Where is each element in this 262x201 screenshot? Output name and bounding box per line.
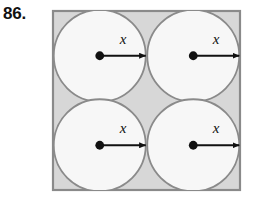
center-dot-bottom-left bbox=[95, 141, 104, 150]
center-dot-top-left bbox=[95, 51, 104, 60]
radius-label-bottom-left: x bbox=[119, 120, 127, 136]
radius-label-top-right: x bbox=[212, 31, 220, 47]
center-dot-bottom-right bbox=[189, 141, 198, 150]
radius-label-top-left: x bbox=[119, 31, 127, 47]
four-circles-in-square-diagram: x x x x bbox=[0, 0, 262, 201]
geometry-figure: 86. x x x bbox=[0, 0, 262, 201]
radius-label-bottom-right: x bbox=[212, 120, 220, 136]
center-dot-top-right bbox=[189, 51, 198, 60]
